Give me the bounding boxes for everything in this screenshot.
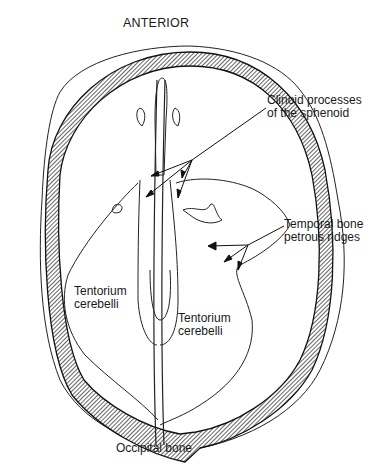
label-line: cerebelli <box>178 325 231 338</box>
label-tentorium-left: Tentorium cerebelli <box>74 285 127 311</box>
label-occipital-bone: Occipital bone <box>116 442 192 455</box>
orientation-title: ANTERIOR <box>123 17 189 30</box>
label-line: of the sphenoid <box>267 107 362 120</box>
foramen-magnum <box>150 270 171 320</box>
foramen-left <box>137 108 145 126</box>
label-tentorium-right: Tentorium cerebelli <box>178 312 231 338</box>
label-line: petrous ridges <box>284 231 363 244</box>
clivus <box>138 180 178 345</box>
falx-midline-2 <box>162 80 165 445</box>
label-line: cerebelli <box>74 298 127 311</box>
petrous-right <box>183 204 222 223</box>
foramen-right <box>173 108 180 126</box>
label-clinoid-processes: Clinoid processes of the sphenoid <box>267 94 362 120</box>
temporal-leaders <box>208 226 284 270</box>
label-temporal-bone: Temporal bone petrous ridges <box>284 218 363 244</box>
